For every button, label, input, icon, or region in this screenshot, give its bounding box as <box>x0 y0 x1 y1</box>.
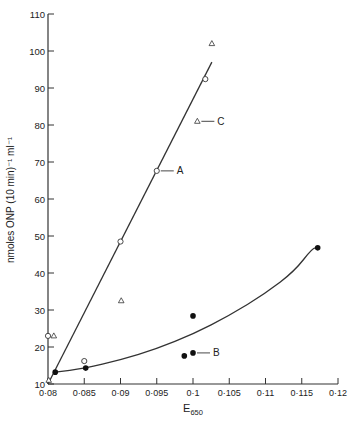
x-tick-label: 0·08 <box>39 388 57 398</box>
point-B <box>52 369 58 375</box>
axes: 0·080·0850·090·0950·10·1050·110·1150·121… <box>29 9 347 399</box>
point-B <box>182 353 188 359</box>
point-C <box>51 333 57 338</box>
data-points <box>45 41 320 383</box>
y-tick-label: 80 <box>34 120 45 131</box>
series-label-A: A <box>177 165 184 176</box>
x-tick-label: 0·1 <box>186 388 199 398</box>
x-tick-label: 0·11 <box>257 388 274 398</box>
x-tick-label: 0·12 <box>329 388 347 398</box>
point-C <box>209 41 215 46</box>
y-tick-label: 100 <box>29 46 45 57</box>
y-tick-label: 90 <box>34 83 45 94</box>
x-tick-label: 0·09 <box>111 388 129 398</box>
y-tick-label: 110 <box>30 9 45 20</box>
point-A <box>82 358 87 363</box>
y-tick-label: 30 <box>34 305 45 316</box>
y-tick-label: 50 <box>34 231 45 242</box>
point-C <box>195 118 201 123</box>
point-B <box>315 245 321 251</box>
x-axis-label: E650 <box>183 402 203 417</box>
y-axis-label: nmoles ONP (10 min)⁻¹ ml⁻¹ <box>5 136 16 263</box>
x-tick-label: 0·115 <box>291 388 313 398</box>
y-tick-label: 40 <box>34 268 45 279</box>
point-labels: ABC <box>161 116 225 359</box>
y-tick-label: 10 <box>34 379 45 390</box>
point-A <box>45 333 50 338</box>
chart-figure: 0·080·0850·090·0950·10·1050·110·1150·121… <box>0 0 354 428</box>
fit-lines <box>48 62 318 384</box>
series-label-B: B <box>213 347 220 358</box>
point-B <box>83 365 89 371</box>
y-tick-label: 60 <box>34 194 45 205</box>
point-C <box>118 298 124 303</box>
fit-curve-B <box>55 248 317 372</box>
point-A <box>154 168 159 173</box>
point-A <box>118 239 123 244</box>
point-B <box>190 350 196 356</box>
series-label-C: C <box>217 116 224 127</box>
x-tick-label: 0·085 <box>73 388 96 398</box>
point-A <box>203 77 208 82</box>
x-tick-label: 0·095 <box>145 388 168 398</box>
x-tick-label: 0·105 <box>218 388 241 398</box>
y-tick-label: 70 <box>34 157 45 168</box>
y-tick-label: 20 <box>34 342 45 353</box>
point-B <box>190 313 196 319</box>
